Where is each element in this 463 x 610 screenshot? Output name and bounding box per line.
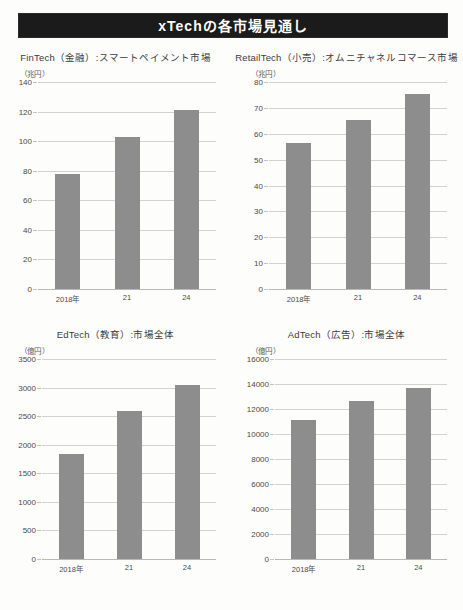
y-tickmark <box>33 289 37 290</box>
chart-panel-fintech: FinTech（金融）:スマートペイメント市場 （兆円） 02040608010… <box>0 46 231 328</box>
y-axis-tick-label: 70 <box>254 103 263 112</box>
y-gridline <box>275 384 447 385</box>
bar <box>117 411 142 559</box>
y-axis-tick-label: 1000 <box>18 497 36 506</box>
y-axis-tick-label: 120 <box>19 107 32 116</box>
y-axis-tick-label: 50 <box>254 155 263 164</box>
y-tickmark <box>270 509 274 510</box>
y-axis-tick-label: 80 <box>254 78 263 87</box>
y-axis-tick-label: 12000 <box>247 405 269 414</box>
bar <box>115 137 140 289</box>
x-axis-tick-label: 24 <box>414 563 422 572</box>
y-tickmark <box>33 112 37 113</box>
bar <box>286 143 311 289</box>
y-axis-tick-label: 4000 <box>251 505 269 514</box>
y-tickmark <box>37 473 41 474</box>
y-axis-tick-label: 1500 <box>18 469 36 478</box>
y-tickmark <box>33 230 37 231</box>
x-axis-tick-label: 21 <box>357 563 365 572</box>
x-axis-tick-label: 21 <box>354 293 362 302</box>
chart-title: FinTech（金融）:スマートペイメント市場 <box>0 50 231 64</box>
y-tickmark <box>33 141 37 142</box>
y-axis-tick-label: 3500 <box>18 355 36 364</box>
y-tickmark <box>270 409 274 410</box>
y-tickmark <box>33 171 37 172</box>
y-axis-tick-label: 40 <box>23 225 32 234</box>
y-gridline <box>275 359 447 360</box>
bar <box>291 420 316 559</box>
y-axis-tick-label: 500 <box>23 526 36 535</box>
x-axis-tick-label: 2018年 <box>287 293 311 304</box>
y-axis-tick-label: 8000 <box>251 455 269 464</box>
y-tickmark <box>270 359 274 360</box>
y-gridline <box>38 82 216 83</box>
y-tickmark <box>37 445 41 446</box>
y-gridline <box>269 289 447 290</box>
x-axis-tick-label: 24 <box>182 293 190 302</box>
y-tickmark <box>264 237 268 238</box>
y-axis-tick-label: 0 <box>32 555 36 564</box>
y-axis-tick-label: 16000 <box>247 355 269 364</box>
plot-area: 0200040006000800010000120001400016000201… <box>275 359 447 559</box>
y-axis-tick-label: 140 <box>19 78 32 87</box>
y-tickmark <box>270 384 274 385</box>
plot-area: 0204060801001201402018年2124 <box>38 82 216 289</box>
y-tickmark <box>264 108 268 109</box>
x-axis-tick-label: 2018年 <box>56 293 80 304</box>
x-axis-tick-label: 24 <box>183 563 191 572</box>
plot-area: 010203040506070802018年2124 <box>269 82 447 289</box>
page-root: xTechの各市場見通し FinTech（金融）:スマートペイメント市場 （兆円… <box>0 0 463 610</box>
y-tickmark <box>37 416 41 417</box>
y-axis-tick-label: 60 <box>23 196 32 205</box>
bar <box>406 388 431 559</box>
y-tickmark <box>264 289 268 290</box>
x-axis-tick-label: 21 <box>125 563 133 572</box>
y-tickmark <box>264 160 268 161</box>
y-gridline <box>42 359 216 360</box>
plot-area: 05001000150020002500300035002018年2124 <box>42 359 216 559</box>
y-tickmark <box>37 502 41 503</box>
y-gridline <box>275 559 447 560</box>
chart-title: EdTech（教育）:市場全体 <box>0 327 231 341</box>
y-axis-tick-label: 60 <box>254 129 263 138</box>
y-tickmark <box>37 530 41 531</box>
y-gridline <box>269 82 447 83</box>
y-axis-tick-label: 0 <box>28 285 32 294</box>
y-gridline <box>38 289 216 290</box>
y-tickmark <box>264 82 268 83</box>
x-axis-tick-label: 24 <box>413 293 421 302</box>
chart-grid: FinTech（金融）:スマートペイメント市場 （兆円） 02040608010… <box>0 46 463 610</box>
y-axis-tick-label: 20 <box>254 233 263 242</box>
x-axis-tick-label: 2018年 <box>292 563 316 574</box>
y-tickmark <box>37 559 41 560</box>
y-tickmark <box>264 186 268 187</box>
y-tickmark <box>270 534 274 535</box>
chart-panel-edtech: EdTech（教育）:市場全体 （億円） 0500100015002000250… <box>0 323 231 605</box>
bar <box>175 385 200 559</box>
bar <box>55 174 80 289</box>
y-axis-tick-label: 100 <box>19 137 32 146</box>
y-tickmark <box>33 82 37 83</box>
chart-panel-adtech: AdTech（広告）:市場全体 （億円） 0200040006000800010… <box>231 323 462 605</box>
y-tickmark <box>37 359 41 360</box>
chart-title: AdTech（広告）:市場全体 <box>231 327 462 341</box>
y-tickmark <box>270 484 274 485</box>
y-tickmark <box>264 263 268 264</box>
y-axis-tick-label: 0 <box>265 555 269 564</box>
y-tickmark <box>270 559 274 560</box>
y-axis-tick-label: 80 <box>23 166 32 175</box>
y-tickmark <box>270 434 274 435</box>
bar <box>349 401 374 559</box>
bar <box>405 94 430 289</box>
chart-title: RetailTech（小売）:オムニチャネルコマース市場 <box>231 50 462 64</box>
y-axis-tick-label: 6000 <box>251 480 269 489</box>
y-tickmark <box>37 388 41 389</box>
x-axis-tick-label: 21 <box>123 293 131 302</box>
chart-panel-retailtech: RetailTech（小売）:オムニチャネルコマース市場 （兆円） 010203… <box>231 46 462 328</box>
y-axis-tick-label: 10000 <box>247 430 269 439</box>
bar <box>346 120 371 289</box>
y-tickmark <box>33 259 37 260</box>
y-tickmark <box>33 200 37 201</box>
y-tickmark <box>264 134 268 135</box>
y-gridline <box>42 559 216 560</box>
